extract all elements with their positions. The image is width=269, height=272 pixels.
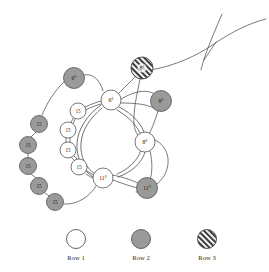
edge-chain-d-e bbox=[45, 193, 49, 196]
legend-swatch-row2 bbox=[132, 230, 151, 249]
node-gray-8deg-label: 8° bbox=[158, 98, 163, 104]
node-gray-6deg[interactable]: 6° bbox=[64, 68, 85, 89]
legend-swatch-row3 bbox=[198, 230, 217, 249]
node-gray-15-d-label: 15 bbox=[36, 183, 42, 189]
edge-chain-c-d bbox=[31, 174, 36, 178]
network-diagram: 6° 8° 6° 8° bbox=[0, 0, 269, 272]
node-gray-15-e-label: 15 bbox=[52, 199, 58, 205]
legend-label-row1: Row 1 bbox=[67, 254, 84, 261]
legend-item-row2[interactable]: Row 2 bbox=[132, 230, 151, 261]
node-white-15-d[interactable]: 15 bbox=[71, 159, 87, 175]
tail-strand-main bbox=[150, 19, 266, 70]
tail-strand-cross bbox=[201, 14, 222, 70]
edge-white11-gray11-b bbox=[112, 175, 140, 184]
node-gray-11deg[interactable]: 11° bbox=[137, 178, 158, 199]
legend: Row 1 Row 2 Row 3 bbox=[67, 230, 217, 261]
node-white-15-c-label: 15 bbox=[65, 147, 71, 153]
node-white-15-a-label: 15 bbox=[75, 108, 81, 114]
node-white-15-d-label: 15 bbox=[76, 164, 82, 170]
legend-item-row1[interactable]: Row 1 bbox=[67, 230, 86, 261]
ring-strand-inner bbox=[81, 108, 141, 174]
edge-hatch8-down bbox=[134, 79, 143, 141]
node-gray-15-e[interactable]: 15 bbox=[47, 194, 64, 211]
node-white-15-a[interactable]: 15 bbox=[70, 103, 86, 119]
edge-gray6-chain bbox=[42, 82, 64, 115]
node-hatched-8deg[interactable]: 8° bbox=[131, 57, 153, 79]
tail-strand-cross-2 bbox=[204, 42, 216, 60]
edge-white6-gray8-lower bbox=[121, 103, 154, 108]
node-gray-15-b-label: 15 bbox=[25, 142, 31, 148]
node-gray-8deg[interactable]: 8° bbox=[151, 91, 172, 112]
node-white-11deg-label: 11° bbox=[99, 175, 107, 181]
node-white-6deg-label: 6° bbox=[108, 97, 113, 103]
node-gray-11deg-label: 11° bbox=[143, 185, 151, 191]
node-white-11deg[interactable]: 11° bbox=[93, 168, 113, 188]
edge-white8-gray11 bbox=[150, 151, 152, 180]
edge-gray6-white6 bbox=[84, 75, 103, 91]
node-gray-6deg-label: 6° bbox=[71, 75, 76, 81]
node-gray-15-d[interactable]: 15 bbox=[31, 178, 48, 195]
node-gray-15-c-label: 15 bbox=[25, 163, 31, 169]
node-white-15-c[interactable]: 15 bbox=[60, 142, 76, 158]
node-white-8deg-label: 8° bbox=[142, 139, 147, 145]
edge-chain-a-b bbox=[31, 132, 36, 137]
edge-w15b-w15c bbox=[66, 138, 70, 142]
node-white-15-b-label: 15 bbox=[65, 127, 71, 133]
edge-gray8-white8 bbox=[148, 111, 158, 136]
node-white-15-b[interactable]: 15 bbox=[60, 122, 76, 138]
legend-swatch-row1 bbox=[67, 230, 86, 249]
node-white-6deg[interactable]: 6° bbox=[101, 90, 121, 110]
edge-chain-e-white11 bbox=[64, 186, 96, 204]
edge-w15a-white6 bbox=[85, 101, 101, 110]
node-gray-15-b[interactable]: 15 bbox=[20, 137, 37, 154]
node-gray-15-a-label: 15 bbox=[36, 121, 42, 127]
legend-label-row2: Row 2 bbox=[132, 254, 149, 261]
edge-layer bbox=[28, 14, 266, 204]
node-hatched-8deg-label: 8° bbox=[139, 65, 144, 71]
node-gray-15-c[interactable]: 15 bbox=[20, 158, 37, 175]
legend-item-row3[interactable]: Row 3 bbox=[198, 230, 217, 261]
edge-hatch8-white6 bbox=[117, 77, 135, 95]
node-white-8deg[interactable]: 8° bbox=[135, 132, 155, 152]
legend-label-row3: Row 3 bbox=[198, 254, 216, 261]
node-gray-15-a[interactable]: 15 bbox=[31, 116, 48, 133]
diagram-canvas: 6° 8° 6° 8° bbox=[0, 0, 269, 272]
